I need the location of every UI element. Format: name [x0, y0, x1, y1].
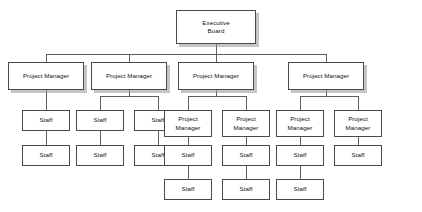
node-project-manager-1[interactable]: Project Manager — [8, 62, 84, 90]
node-label: Project Manager — [232, 115, 261, 132]
node-staff-4[interactable]: Staff — [22, 145, 70, 166]
connector-pm3-bus — [188, 96, 246, 97]
connector-pm2-s2 — [100, 96, 101, 110]
node-label: Staff — [238, 151, 255, 159]
node-project-manager-2[interactable]: Project Manager — [91, 62, 167, 90]
node-staff-10[interactable]: Staff — [334, 145, 382, 166]
node-label: Project Manager — [21, 72, 71, 80]
node-project-manager-8[interactable]: Project Manager — [334, 110, 382, 137]
connector-pm1-s1 — [46, 89, 47, 110]
node-label: Project Manager — [104, 72, 154, 80]
connector-pm2-s3 — [158, 96, 159, 110]
node-label: Staff — [292, 185, 309, 193]
node-staff-9[interactable]: Staff — [276, 145, 324, 166]
org-chart-diagram: Executive Board Project Manager Project … — [0, 0, 422, 212]
node-label: Project Manager — [301, 72, 351, 80]
node-label: Staff — [92, 151, 109, 159]
node-label: Project Manager — [174, 115, 203, 132]
connector-level1-bus — [46, 54, 326, 55]
node-label: Staff — [180, 151, 197, 159]
node-project-manager-5[interactable]: Project Manager — [164, 110, 212, 137]
connector-pm2-bus — [100, 96, 158, 97]
connector-pm8-s10 — [358, 137, 359, 145]
node-label: Staff — [38, 151, 55, 159]
node-staff-2[interactable]: Staff — [76, 110, 124, 131]
node-staff-13[interactable]: Staff — [276, 179, 324, 200]
node-staff-12[interactable]: Staff — [222, 179, 270, 200]
connector-s8-s12 — [246, 166, 247, 179]
node-label: Project Manager — [344, 115, 373, 132]
connector-s2-s5 — [100, 131, 101, 145]
node-project-manager-3[interactable]: Project Manager — [178, 62, 254, 90]
connector-s1-s4 — [46, 131, 47, 145]
connector-s9-s13 — [300, 166, 301, 179]
node-label: Staff — [92, 116, 109, 124]
node-staff-1[interactable]: Staff — [22, 110, 70, 131]
connector-pm5-s7 — [188, 137, 189, 145]
node-executive-board[interactable]: Executive Board — [176, 10, 256, 44]
connector-pm4-pm7 — [300, 96, 301, 110]
connector-pm7-s9 — [300, 137, 301, 145]
node-label: Project Manager — [191, 72, 241, 80]
node-label: Project Manager — [286, 115, 315, 132]
connector-pm4-pm8 — [358, 96, 359, 110]
node-label: Staff — [38, 116, 55, 124]
node-project-manager-7[interactable]: Project Manager — [276, 110, 324, 137]
node-staff-11[interactable]: Staff — [164, 179, 212, 200]
node-label: Staff — [180, 185, 197, 193]
node-staff-5[interactable]: Staff — [76, 145, 124, 166]
node-staff-7[interactable]: Staff — [164, 145, 212, 166]
connector-pm3-pm5 — [188, 96, 189, 110]
connector-pm6-s8 — [246, 137, 247, 145]
connector-pm3-pm6 — [246, 96, 247, 110]
node-label: Staff — [292, 151, 309, 159]
connector-pm4-bus — [300, 96, 358, 97]
node-label: Staff — [238, 185, 255, 193]
node-label: Executive Board — [200, 19, 231, 36]
node-label: Staff — [350, 151, 367, 159]
node-project-manager-4[interactable]: Project Manager — [288, 62, 364, 90]
node-project-manager-6[interactable]: Project Manager — [222, 110, 270, 137]
connector-s3-s6 — [158, 131, 159, 145]
node-staff-8[interactable]: Staff — [222, 145, 270, 166]
connector-s7-s11 — [188, 166, 189, 179]
